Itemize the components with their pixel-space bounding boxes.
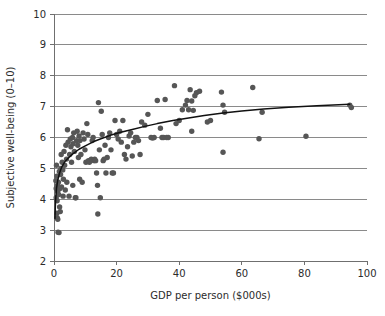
data-point <box>93 158 98 163</box>
data-point <box>69 160 74 165</box>
data-point <box>74 129 79 134</box>
scatter-chart-gdp-wellbeing: 2345678910 020406080100 GDP per person (… <box>0 0 385 316</box>
data-point <box>73 195 78 200</box>
data-point <box>108 147 113 152</box>
data-point <box>151 135 156 140</box>
data-point <box>57 204 62 209</box>
xtick-label-60: 60 <box>235 268 248 279</box>
data-point <box>65 127 70 132</box>
data-point <box>63 187 68 192</box>
data-point <box>90 135 95 140</box>
data-point <box>349 105 354 110</box>
xtick-label-20: 20 <box>110 268 123 279</box>
data-point <box>105 155 110 160</box>
data-point <box>78 152 83 157</box>
chart-canvas: 2345678910 020406080100 GDP per person (… <box>0 0 385 316</box>
ytick-label-2: 2 <box>40 256 46 267</box>
data-point <box>256 136 261 141</box>
data-point <box>100 132 105 137</box>
data-point <box>80 130 85 135</box>
data-point <box>103 170 108 175</box>
data-point <box>94 170 99 175</box>
data-point <box>97 147 102 152</box>
xtick-label-80: 80 <box>298 268 311 279</box>
ytick-label-8: 8 <box>40 70 46 81</box>
data-point <box>56 230 61 235</box>
chart-background <box>0 0 385 316</box>
data-point <box>95 211 100 216</box>
data-point <box>136 138 141 143</box>
data-point <box>303 134 308 139</box>
data-point <box>219 89 224 94</box>
data-point <box>172 83 177 88</box>
data-point <box>180 107 185 112</box>
data-point <box>155 98 160 103</box>
data-point <box>130 153 135 158</box>
data-point <box>61 149 66 154</box>
data-point <box>75 143 80 148</box>
data-point <box>120 118 125 123</box>
data-point <box>259 109 264 114</box>
data-point <box>111 170 116 175</box>
data-point <box>208 118 213 123</box>
data-point <box>55 217 60 222</box>
data-point <box>82 147 87 152</box>
data-point <box>250 85 255 90</box>
data-point <box>122 152 127 157</box>
data-point <box>98 195 103 200</box>
ytick-label-6: 6 <box>40 132 46 143</box>
data-point <box>162 97 167 102</box>
y-axis-title: Subjective well-being (0–10) <box>5 66 16 208</box>
x-axis-title: GDP per person ($000s) <box>150 290 270 301</box>
data-point <box>183 102 188 107</box>
ytick-label-7: 7 <box>40 101 46 112</box>
xtick-label-100: 100 <box>357 268 376 279</box>
ytick-label-5: 5 <box>40 163 46 174</box>
ytick-label-9: 9 <box>40 39 46 50</box>
data-point <box>85 132 90 137</box>
data-point <box>186 107 191 112</box>
data-point <box>158 126 163 131</box>
data-point <box>131 139 136 144</box>
xtick-label-40: 40 <box>173 268 186 279</box>
data-point <box>220 102 225 107</box>
data-point <box>145 112 150 117</box>
data-point <box>184 98 189 103</box>
data-point <box>112 118 117 123</box>
data-point <box>125 144 130 149</box>
data-point <box>197 88 202 93</box>
data-point <box>81 136 86 141</box>
ytick-label-3: 3 <box>40 225 46 236</box>
data-point <box>84 121 89 126</box>
data-point <box>64 180 69 185</box>
data-point <box>166 135 171 140</box>
data-point <box>189 129 194 134</box>
data-point <box>220 150 225 155</box>
data-point <box>60 193 65 198</box>
data-point <box>96 100 101 105</box>
data-point <box>99 109 104 114</box>
ytick-label-4: 4 <box>40 194 46 205</box>
ytick-label-10: 10 <box>33 9 46 20</box>
data-point <box>54 163 59 168</box>
data-point <box>70 183 75 188</box>
data-point <box>66 193 71 198</box>
data-point <box>187 87 192 92</box>
data-point <box>102 143 107 148</box>
data-point <box>189 98 194 103</box>
data-point <box>123 156 128 161</box>
xtick-label-0: 0 <box>51 268 57 279</box>
data-point <box>119 139 124 144</box>
data-point <box>95 183 100 188</box>
data-point <box>58 209 63 214</box>
data-point <box>79 180 84 185</box>
data-point <box>191 108 196 113</box>
data-point <box>137 152 142 157</box>
